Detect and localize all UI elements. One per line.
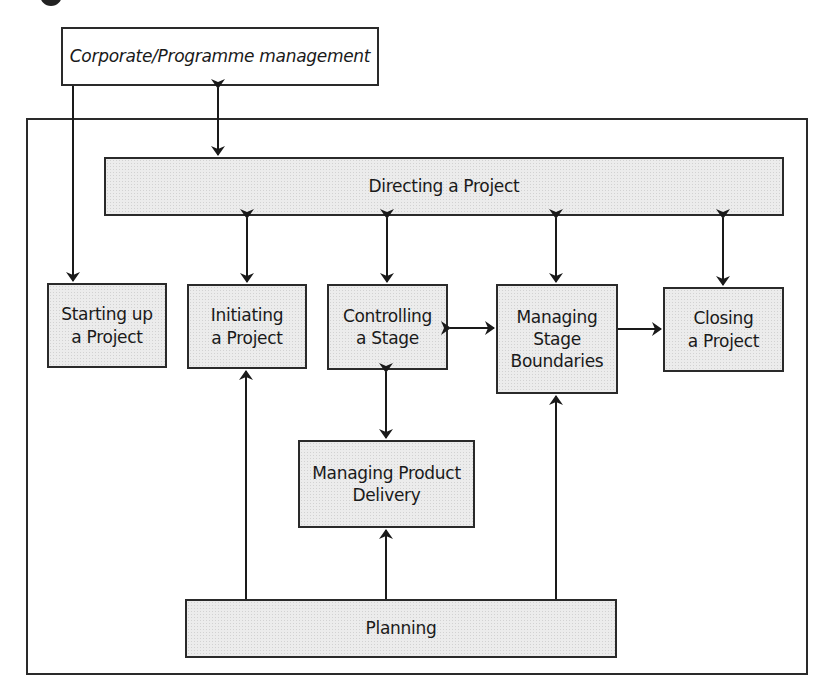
managing-stage-boundaries-box: Managing Stage Boundaries xyxy=(496,284,618,394)
cropped-caption-fragment xyxy=(40,0,62,6)
planning-label: Planning xyxy=(366,617,437,639)
starting-up-a-project-label: Starting up a Project xyxy=(61,303,153,347)
managing-product-delivery-box: Managing Product Delivery xyxy=(298,440,475,528)
planning-box: Planning xyxy=(185,599,617,658)
corporate-management-box: Corporate/Programme management xyxy=(61,27,379,86)
managing-product-delivery-label: Managing Product Delivery xyxy=(312,462,461,506)
controlling-a-stage-label: Controlling a Stage xyxy=(343,305,432,349)
managing-stage-boundaries-label: Managing Stage Boundaries xyxy=(511,306,604,372)
closing-a-project-label: Closing a Project xyxy=(688,307,759,351)
directing-a-project-box: Directing a Project xyxy=(104,157,784,216)
corporate-management-label: Corporate/Programme management xyxy=(70,45,370,67)
initiating-a-project-box: Initiating a Project xyxy=(187,284,307,369)
initiating-a-project-label: Initiating a Project xyxy=(211,304,283,348)
directing-a-project-label: Directing a Project xyxy=(369,175,520,197)
closing-a-project-box: Closing a Project xyxy=(663,287,784,372)
controlling-a-stage-box: Controlling a Stage xyxy=(327,284,448,370)
starting-up-a-project-box: Starting up a Project xyxy=(47,283,167,368)
